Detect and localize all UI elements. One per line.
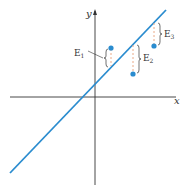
residual-label: E1 <box>74 48 84 59</box>
residual-e1: E1 <box>74 45 114 67</box>
y-axis-label: y <box>85 8 92 19</box>
data-point <box>130 71 135 76</box>
axes: y x <box>10 8 180 185</box>
brace-icon <box>104 49 108 67</box>
residual-e2: E2 <box>130 45 153 77</box>
x-axis-label: x <box>174 95 180 106</box>
data-point <box>108 45 113 50</box>
y-axis-arrow-icon <box>93 9 97 15</box>
residual-e3: E3 <box>151 23 174 49</box>
diagram-canvas: y x E1 E2 E3 <box>0 0 184 192</box>
residual-label: E3 <box>164 29 175 40</box>
data-point <box>151 43 156 48</box>
residual-label: E2 <box>143 53 154 64</box>
residual-diagram: y x E1 E2 E3 <box>0 0 184 192</box>
brace-icon <box>158 23 162 45</box>
leader-line <box>88 51 103 58</box>
brace-icon <box>137 45 141 73</box>
regression-line <box>10 10 166 173</box>
